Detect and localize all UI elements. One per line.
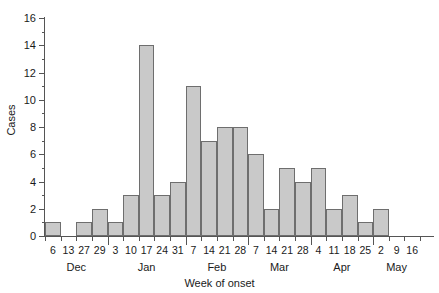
x-axis-tick — [295, 237, 296, 241]
bar — [342, 195, 358, 236]
x-axis-tick — [76, 237, 77, 241]
plot-area — [45, 18, 420, 236]
bar — [186, 86, 202, 236]
x-axis-tick-label: 21 — [219, 245, 231, 256]
bar — [233, 127, 249, 236]
x-axis-tick — [170, 237, 171, 241]
x-axis-tick-label: 21 — [281, 245, 293, 256]
y-axis-tick-label: 8 — [30, 122, 36, 133]
y-axis-tick-labels: 0246810121416 — [0, 18, 36, 236]
y-axis-tick-label: 12 — [24, 67, 36, 78]
x-axis-tick-label: 11 — [329, 245, 340, 256]
x-axis-month-separator — [186, 237, 187, 245]
x-axis-tick — [139, 237, 140, 241]
x-axis-month-separator — [248, 237, 249, 245]
x-axis-month-separator — [311, 237, 312, 245]
bar — [264, 209, 280, 236]
x-axis-tick — [45, 237, 46, 241]
x-axis-month-label: Jan — [138, 262, 156, 273]
x-axis-tick-label: 17 — [141, 245, 153, 256]
x-axis-month-labels: DecJanFebMarAprMay — [45, 262, 420, 276]
x-axis-tick-label: 7 — [191, 245, 197, 256]
x-axis-month-label: Dec — [66, 262, 86, 273]
y-axis-tick-label: 2 — [30, 203, 36, 214]
x-axis-tick-label: 6 — [50, 245, 56, 256]
bar — [139, 45, 155, 236]
x-axis-tick-label: 24 — [156, 245, 168, 256]
x-axis-tick — [123, 237, 124, 241]
x-axis-title: Week of onset — [0, 278, 439, 289]
x-axis-tick — [358, 237, 359, 241]
bar — [170, 182, 186, 237]
x-axis-month-label: Feb — [207, 262, 226, 273]
y-axis-tick-label: 6 — [30, 149, 36, 160]
y-axis-tick-label: 4 — [30, 176, 36, 187]
bar — [295, 182, 311, 237]
x-axis-tick-label: 16 — [406, 245, 418, 256]
y-axis-tick-label: 10 — [24, 94, 36, 105]
y-axis-tick-label: 16 — [24, 13, 36, 24]
epidemic-curve-chart: Cases 0246810121416 61327293101724317142… — [0, 0, 439, 293]
x-axis-tick — [326, 237, 327, 241]
x-axis-month-label: May — [386, 262, 407, 273]
x-axis-tick-label: 31 — [172, 245, 184, 256]
x-axis-tick-label: 27 — [78, 245, 90, 256]
x-axis-tick — [342, 237, 343, 241]
x-axis-tick-label: 10 — [125, 245, 137, 256]
x-axis-tick-label: 9 — [394, 245, 400, 256]
y-axis-tick-label: 0 — [30, 231, 36, 242]
x-axis-tick-label: 29 — [94, 245, 106, 256]
y-axis-tick-label: 14 — [24, 40, 36, 51]
x-axis-tick — [264, 237, 265, 241]
x-axis-tick — [389, 237, 390, 241]
x-axis-month-label: Apr — [333, 262, 350, 273]
x-axis-month-label: Mar — [270, 262, 289, 273]
x-axis-tick — [201, 237, 202, 241]
x-axis-tick-label: 25 — [359, 245, 371, 256]
x-axis-month-separator — [108, 237, 109, 245]
bar — [279, 168, 295, 236]
bar — [154, 195, 170, 236]
x-axis-tick — [92, 237, 93, 241]
x-axis-tick-label: 14 — [266, 245, 278, 256]
bar — [92, 209, 108, 236]
x-axis-tick — [233, 237, 234, 241]
x-axis-month-separator — [373, 237, 374, 245]
x-axis-tick-labels: 6132729310172431714212871421284111825291… — [45, 245, 420, 259]
bar — [248, 154, 264, 236]
x-axis-tick-label: 13 — [63, 245, 75, 256]
bar — [217, 127, 233, 236]
bar — [358, 222, 374, 236]
x-axis-tick-label: 7 — [253, 245, 259, 256]
x-axis-tick-label: 4 — [316, 245, 322, 256]
bar — [108, 222, 124, 236]
x-axis-tick — [420, 237, 421, 241]
x-axis-tick — [61, 237, 62, 241]
bar — [201, 141, 217, 236]
x-axis-tick-label: 28 — [234, 245, 246, 256]
x-axis-tick-label: 14 — [203, 245, 215, 256]
bar — [326, 209, 342, 236]
x-axis-tick — [279, 237, 280, 241]
x-axis-tick — [154, 237, 155, 241]
bar — [311, 168, 327, 236]
bar — [373, 209, 389, 236]
x-axis-tick-label: 3 — [112, 245, 118, 256]
x-axis-tick — [404, 237, 405, 241]
bar — [45, 222, 61, 236]
x-axis-tick-label: 2 — [378, 245, 384, 256]
x-axis-tick-label: 28 — [297, 245, 309, 256]
bar — [76, 222, 92, 236]
x-axis-tick-label: 18 — [344, 245, 356, 256]
x-axis-tick — [217, 237, 218, 241]
bar — [123, 195, 139, 236]
